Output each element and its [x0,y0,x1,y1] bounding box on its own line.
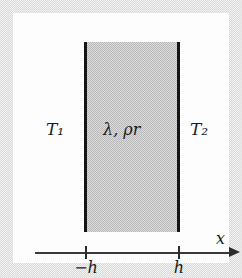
x-axis-label: x [216,229,225,248]
figure-plate: T₁ λ, ρr T₂ x −h h [13,13,229,263]
material-properties-label: λ, ρr [103,120,140,139]
x-axis-line [35,252,231,254]
x-axis-tick-label-negative-h: −h [68,258,104,277]
x-axis-arrow-icon [229,247,240,257]
slab-left-boundary-line [84,42,87,232]
right-temperature-label: T₂ [190,119,208,139]
slab-diagram-figure: T₁ λ, ρr T₂ x −h h [0,0,242,278]
left-temperature-label: T₁ [46,119,64,139]
slab-right-boundary-line [177,42,180,232]
x-axis-tick-label-positive-h: h [165,258,193,277]
